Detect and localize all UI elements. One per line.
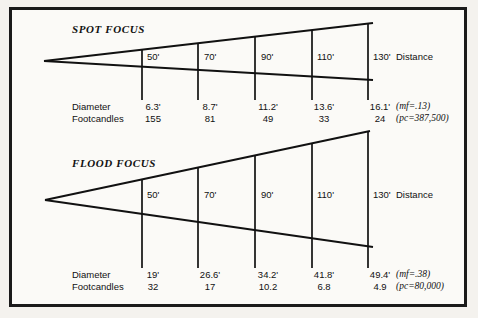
spot-multiplying-factor-note: (mf=.13) [396,101,430,111]
spot-footcandles-value-70: 81 [205,113,216,124]
spot-tick-label-90: 90' [261,51,273,62]
flood-diameter-value-90: 34.2' [258,269,278,280]
spot-footcandles-value-90: 49 [263,113,274,124]
spot-footcandles-value-130: 24 [375,113,386,124]
flood-footcandles-value-110: 6.8 [317,281,330,292]
spot-tick-label-110: 110' [317,51,334,62]
beam-spread-figure: SPOT FOCUS 50' 70' 90' 110' 130' Distanc… [0,0,478,318]
spot-tick-label-70: 70' [204,51,216,62]
flood-peak-candela-note: (pc=80,000) [396,281,444,291]
flood-footcandles-row-label: Footcandles [72,281,124,292]
spot-diameter-row-label: Diameter [72,101,111,112]
spot-peak-candela-note: (pc=387,500) [396,113,449,123]
spot-diameter-value-90: 11.2' [258,101,278,112]
flood-multiplying-factor-note: (mf=.38) [396,269,430,279]
flood-focus-title: FLOOD FOCUS [72,157,156,169]
flood-diameter-value-130: 49.4' [370,269,390,280]
flood-tick-label-50: 50' [147,189,159,200]
flood-distance-axis-label: Distance [396,189,433,200]
flood-footcandles-value-70: 17 [205,281,216,292]
flood-diameter-value-50: 19' [147,269,159,280]
spot-diameter-value-70: 8.7' [202,101,217,112]
flood-footcandles-value-130: 4.9 [373,281,386,292]
flood-tick-label-70: 70' [204,189,216,200]
spot-diameter-value-110: 13.6' [314,101,334,112]
flood-tick-label-110: 110' [317,189,334,200]
spot-diameter-value-130: 16.1' [370,101,390,112]
spot-diameter-value-50: 6.3' [145,101,160,112]
flood-footcandles-value-90: 10.2 [259,281,278,292]
flood-diameter-value-70: 26.6' [200,269,220,280]
flood-diameter-row-label: Diameter [72,269,111,280]
spot-focus-title: SPOT FOCUS [72,23,145,35]
flood-footcandles-value-50: 32 [148,281,159,292]
spot-footcandles-value-110: 33 [319,113,330,124]
flood-tick-label-90: 90' [261,189,273,200]
spot-tick-label-130: 130' [373,51,391,62]
spot-distance-axis-label: Distance [396,51,433,62]
spot-footcandles-value-50: 155 [145,113,161,124]
spot-footcandles-row-label: Footcandles [72,113,124,124]
spot-focus-ticks [142,24,368,100]
spot-tick-label-50: 50' [147,51,159,62]
flood-focus-ticks [142,131,368,268]
flood-tick-label-130: 130' [373,189,391,200]
flood-diameter-value-110: 41.8' [314,269,334,280]
